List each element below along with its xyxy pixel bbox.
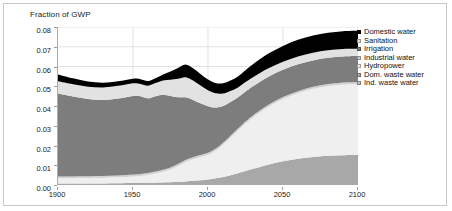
legend-item-label: Industrial water bbox=[364, 54, 415, 62]
y-axis-title: Fraction of GWP bbox=[30, 10, 91, 19]
y-tick-label: 0.03 bbox=[36, 126, 51, 134]
y-tick-label: 0.08 bbox=[36, 27, 51, 35]
x-tick-mark bbox=[282, 187, 283, 190]
x-tick-mark bbox=[57, 187, 58, 190]
y-tick-mark bbox=[54, 165, 57, 166]
y-tick-mark bbox=[54, 67, 57, 68]
legend-item-label: Ind. waste water bbox=[364, 79, 419, 87]
y-tick-label: 0.05 bbox=[36, 86, 51, 94]
y-tick-mark bbox=[54, 126, 57, 127]
legend-swatch-icon bbox=[357, 39, 361, 43]
plot-area bbox=[57, 27, 357, 185]
y-tick-mark bbox=[54, 27, 57, 28]
x-tick-label: 1900 bbox=[49, 190, 66, 199]
legend-item-label: Sanitation bbox=[364, 37, 397, 45]
legend-swatch-icon bbox=[357, 30, 361, 34]
legend-swatch-icon bbox=[357, 47, 361, 51]
legend-swatch-icon bbox=[357, 56, 361, 60]
y-tick-label: 0.04 bbox=[36, 106, 51, 114]
legend-item[interactable]: Ind. waste water bbox=[357, 79, 449, 87]
legend-swatch-icon bbox=[357, 73, 361, 77]
y-tick-label: 0.02 bbox=[36, 146, 51, 154]
y-tick-label: 0.01 bbox=[36, 165, 51, 173]
y-tick-mark bbox=[54, 146, 57, 147]
legend-swatch-icon bbox=[357, 64, 361, 68]
y-tick-mark bbox=[54, 106, 57, 107]
x-axis-ticks: 19001950200020502100 bbox=[57, 187, 359, 203]
x-tick-label: 1950 bbox=[124, 190, 141, 199]
legend-item[interactable]: Hydropower bbox=[357, 62, 449, 70]
legend-item[interactable]: Domestic water bbox=[357, 28, 449, 36]
chart-figure: Fraction of GWP 0.000.010.020.030.040.05… bbox=[0, 0, 452, 211]
y-tick-label: 0.07 bbox=[36, 47, 51, 55]
stacked-area-svg bbox=[58, 27, 358, 185]
legend-item-label: Hydropower bbox=[364, 62, 404, 70]
y-tick-label: 0.06 bbox=[36, 67, 51, 75]
x-tick-mark bbox=[207, 187, 208, 190]
y-axis-ticks: 0.000.010.020.030.040.050.060.070.08 bbox=[22, 27, 54, 185]
legend-item-label: Domestic water bbox=[364, 28, 416, 36]
y-tick-mark bbox=[54, 86, 57, 87]
x-tick-mark bbox=[132, 187, 133, 190]
y-tick-mark bbox=[54, 47, 57, 48]
x-tick-label: 2050 bbox=[274, 190, 291, 199]
legend-item-label: Dom. waste water bbox=[364, 71, 424, 79]
x-tick-label: 2000 bbox=[199, 190, 216, 199]
legend-item-label: Irrigation bbox=[364, 45, 393, 53]
legend: Domestic waterSanitationIrrigationIndust… bbox=[357, 28, 449, 88]
legend-item[interactable]: Irrigation bbox=[357, 45, 449, 53]
x-tick-mark bbox=[357, 187, 358, 190]
y-tick-mark bbox=[54, 185, 57, 186]
x-tick-label: 2100 bbox=[349, 190, 366, 199]
legend-swatch-icon bbox=[357, 81, 361, 85]
